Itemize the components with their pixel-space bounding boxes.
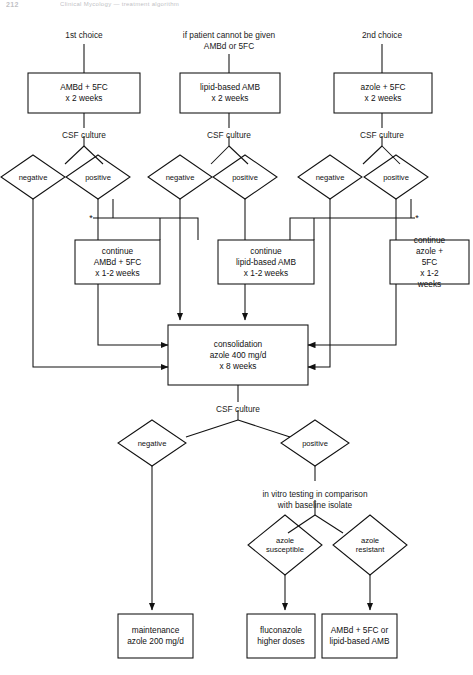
decision-neg-final	[118, 420, 186, 466]
decision-neg2	[148, 155, 212, 199]
column-heading-col1: 1st choice	[65, 30, 102, 41]
decision-azole-resistant	[333, 515, 407, 575]
continue-box-cont-ambd	[75, 240, 160, 284]
flowchart-page: 212 Clinical Mycology — treatment algori…	[0, 0, 473, 675]
in-vitro-testing-label: in vitro testing in comparison with base…	[262, 489, 367, 510]
outcome-box-amb-or-lipid	[322, 614, 397, 658]
column-heading-col3: 2nd choice	[362, 30, 402, 41]
csf-culture-label-csf3: CSF culture	[360, 130, 404, 141]
decision-pos-final	[281, 420, 349, 466]
decision-azole-susceptible	[248, 515, 322, 575]
flowchart-connector-layer	[0, 0, 473, 675]
decision-pos3	[364, 155, 428, 199]
csf-culture-label-csf1: CSF culture	[62, 130, 106, 141]
decision-pos1	[66, 155, 130, 199]
footnote-asterisk-asterisk-left: *	[89, 213, 93, 223]
outcome-box-maintenance	[118, 614, 193, 658]
induction-box-ambd-5fc	[28, 73, 140, 113]
continue-box-cont-azole	[390, 240, 469, 284]
column-heading-col2: if patient cannot be given AMBd or 5FC	[183, 30, 275, 51]
footnote-asterisk-asterisk-right: *	[415, 213, 419, 223]
outcome-box-fluconazole	[247, 614, 315, 658]
continue-box-cont-lipid	[218, 240, 314, 284]
csf-culture-label-csf2: CSF culture	[207, 130, 251, 141]
induction-box-lipid-amb	[180, 73, 280, 113]
csf-culture-label-csf4: CSF culture	[216, 404, 260, 415]
induction-box-azole-5fc	[334, 73, 432, 113]
decision-neg3	[298, 155, 362, 199]
decision-neg1	[1, 155, 65, 199]
consolidation-box	[168, 325, 308, 385]
